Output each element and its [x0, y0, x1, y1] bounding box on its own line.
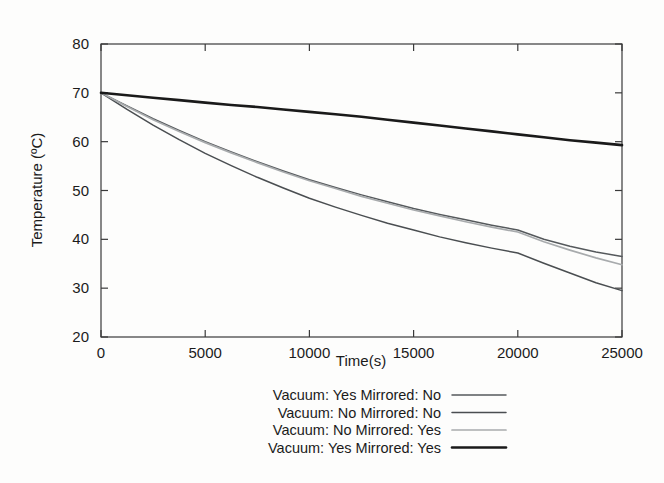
y-tick-label-0: 20: [72, 328, 89, 345]
x-tick-label-0: 0: [97, 344, 105, 361]
legend-label-2: Vacuum: No Mirrored: Yes: [273, 422, 441, 438]
x-tick-label-5: 25000: [601, 344, 643, 361]
legend-label-0: Vacuum: Yes Mirrored: No: [273, 387, 441, 403]
chart-figure: 0500010000150002000025000 20304050607080…: [0, 0, 664, 483]
y-tick-label-1: 30: [72, 279, 89, 296]
x-axis-title: Time(s): [336, 352, 386, 369]
legend-label-3: Vacuum: Yes Mirrored: Yes: [268, 440, 441, 456]
plot-frame: [101, 44, 622, 337]
series-line-3: [101, 93, 622, 145]
data-series-group: [101, 93, 622, 291]
y-tick-label-4: 60: [72, 133, 89, 150]
y-tick-label-5: 70: [72, 84, 89, 101]
chart-canvas: 0500010000150002000025000 20304050607080…: [0, 0, 664, 483]
y-tick-label-2: 40: [72, 230, 89, 247]
legend-label-1: Vacuum: No Mirrored: No: [278, 405, 441, 421]
y-axis-title: Temperature (ºC): [28, 133, 45, 248]
y-axis-tick-labels: 20304050607080: [72, 35, 89, 345]
x-tick-label-1: 5000: [189, 344, 222, 361]
chart-legend: Vacuum: Yes Mirrored: NoVacuum: No Mirro…: [268, 387, 506, 456]
x-tick-label-4: 20000: [497, 344, 539, 361]
y-tick-label-3: 50: [72, 182, 89, 199]
x-tick-label-3: 15000: [393, 344, 435, 361]
axis-ticks: [101, 44, 622, 337]
series-line-1: [101, 93, 622, 291]
x-tick-label-2: 10000: [289, 344, 331, 361]
y-tick-label-6: 80: [72, 35, 89, 52]
